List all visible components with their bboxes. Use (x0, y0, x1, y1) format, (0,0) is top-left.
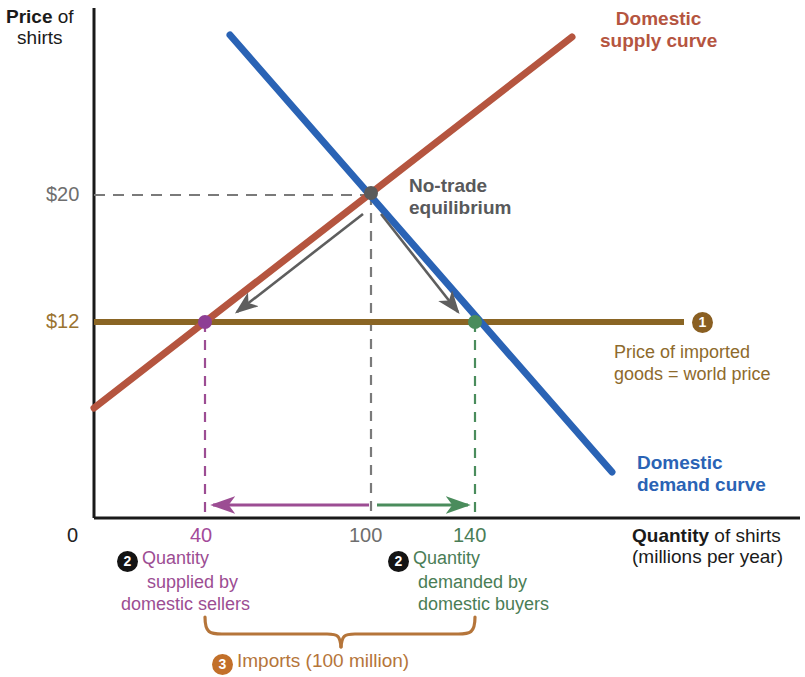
supply-curve-label: Domestic supply curve (600, 8, 717, 53)
world-price-note-line1: Price of imported (614, 342, 750, 362)
y-tick-12: $12 (46, 310, 79, 332)
quantity-demanded-note-line2: demanded by (418, 572, 527, 592)
quantity-supplied-note: 2Quantity supplied by domestic sellers (117, 548, 250, 615)
x-axis-title-line2: (millions per year) (632, 546, 783, 567)
imports-note-text: Imports (100 million) (237, 650, 409, 671)
y-tick-20: $20 (46, 183, 79, 205)
demand-curve-label-line1: Domestic (637, 452, 723, 473)
x-tick-origin: 0 (67, 524, 78, 546)
quantity-demanded-note-line1: Quantity (413, 548, 480, 568)
x-axis-title-rest: of shirts (709, 525, 781, 546)
quantity-supplied-note-line2: supplied by (147, 572, 238, 592)
x-axis-title: Quantity of shirts (millions per year) (632, 525, 783, 568)
equilibrium-label-line2: equilibrium (409, 197, 511, 218)
equilibrium-dot (364, 186, 378, 200)
y-axis-title-rest: of (52, 6, 73, 27)
y-axis-title: Price of shirts (6, 6, 74, 49)
quantity-supplied-note-line1: Quantity (142, 548, 209, 568)
quantity-supplied-note-line3: domestic sellers (121, 594, 250, 614)
demand-curve-label: Domestic demand curve (637, 452, 766, 497)
quantity-demanded-dot (468, 315, 482, 329)
economics-trade-diagram: Price of shirts $20 $12 0 40 100 140 Qua… (0, 0, 805, 677)
world-price-note: Price of imported goods = world price (614, 342, 771, 385)
axis-lines (94, 8, 800, 518)
badge-number-2-supplied: 2 (117, 551, 138, 572)
domestic-demand-curve (230, 35, 612, 472)
imports-note: 3Imports (100 million) (212, 650, 409, 675)
equilibrium-label-line1: No-trade (409, 175, 487, 196)
y-axis-title-line2: shirts (6, 27, 74, 48)
badge-number-2-demanded: 2 (388, 551, 409, 572)
quantity-demanded-note: 2Quantity demanded by domestic buyers (388, 548, 549, 615)
x-tick-40: 40 (190, 524, 212, 546)
imports-brace (205, 617, 475, 647)
supply-curve-label-line1: Domestic (616, 8, 702, 29)
quantity-demanded-note-line3: domestic buyers (418, 594, 549, 614)
x-axis-title-bold: Quantity (632, 525, 709, 546)
world-price-note-line2: goods = world price (614, 364, 771, 384)
x-tick-140: 140 (453, 524, 486, 546)
x-tick-100: 100 (349, 524, 382, 546)
badge-number-3: 3 (212, 654, 233, 675)
quantity-guides (205, 195, 475, 518)
quantity-supplied-dot (198, 315, 212, 329)
supply-curve-label-line2: supply curve (600, 30, 717, 51)
demand-curve-label-line2: demand curve (637, 474, 766, 495)
callout-badge-1: 1 (692, 311, 717, 333)
y-axis-title-bold: Price (6, 6, 52, 27)
domestic-supply-curve (94, 37, 572, 408)
badge-number-1: 1 (692, 312, 713, 333)
no-trade-equilibrium-label: No-trade equilibrium (409, 175, 511, 220)
